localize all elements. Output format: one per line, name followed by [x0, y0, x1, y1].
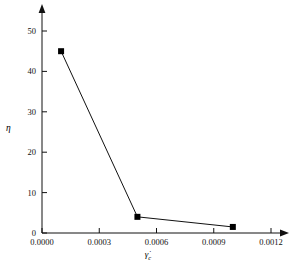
x-tick-label-0: 0.0000 [30, 238, 53, 247]
x-axis-title: γ̇c [145, 249, 151, 261]
y-axis-ticks [42, 31, 47, 233]
plot-area [0, 0, 296, 269]
y-tick-label-0: 0 [14, 229, 36, 238]
data-point-marker [134, 214, 140, 220]
y-tick-label-50: 50 [14, 27, 36, 36]
x-axis-ticks [42, 228, 271, 233]
y-axis [39, 4, 46, 233]
x-tick-label-2: 0.0006 [145, 238, 168, 247]
chart-figure: 0 10 20 30 40 50 0.0000 0.0003 0.0006 0.… [0, 0, 296, 269]
y-tick-label-40: 40 [14, 67, 36, 76]
data-series-line [61, 51, 233, 227]
x-tick-label-4: 0.0012 [259, 238, 282, 247]
y-axis-title: η [6, 123, 11, 133]
y-tick-label-10: 10 [14, 188, 36, 197]
data-point-marker [58, 48, 64, 54]
x-tick-label-3: 0.0009 [202, 238, 225, 247]
y-tick-label-20: 20 [14, 148, 36, 157]
y-tick-label-30: 30 [14, 108, 36, 117]
x-axis [42, 230, 289, 237]
data-point-markers [58, 48, 236, 230]
x-tick-label-1: 0.0003 [88, 238, 111, 247]
x-axis-title-subscript: c [148, 254, 151, 261]
data-point-marker [230, 224, 236, 230]
